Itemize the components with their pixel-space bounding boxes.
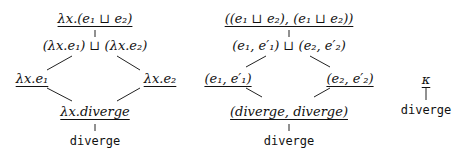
node-lambda-top: λx.(e₁ ⊔ e₂): [58, 11, 133, 26]
edge-right-meet-mid: [314, 88, 330, 97]
edge-left-meet-left: [47, 88, 72, 101]
node-pair-bottom: diverge: [264, 134, 315, 149]
node-kappa-top: κ: [422, 72, 431, 87]
node-pair-top: ((e₁ ⊔ e₂), (e₁ ⊔ e₂)): [225, 11, 354, 26]
edge-join-right-mid: [310, 56, 330, 67]
edge-right-meet-left: [117, 88, 140, 101]
node-kappa-bottom: diverge: [401, 103, 452, 118]
node-pair-join: (e₁, e′₁) ⊔ (e₂, e′₂): [232, 38, 346, 53]
node-lambda-right: λx.e₂: [144, 71, 177, 86]
node-pair-right: (e₂, e′₂): [326, 71, 373, 86]
edge-join-left-left: [47, 56, 72, 70]
node-pair-meet: (diverge, diverge): [230, 104, 348, 119]
node-pair-left: (e₁, e′₁): [204, 71, 251, 86]
node-lambda-meet: λx.diverge: [60, 104, 129, 119]
edge-left-meet-mid: [246, 88, 262, 97]
node-lambda-bottom: diverge: [70, 134, 121, 149]
node-lambda-join: (λx.e₁) ⊔ (λx.e₂): [43, 38, 148, 53]
edge-join-left-mid: [246, 56, 266, 67]
edge-join-right-left: [117, 56, 140, 70]
node-lambda-left: λx.e₁: [16, 71, 49, 86]
